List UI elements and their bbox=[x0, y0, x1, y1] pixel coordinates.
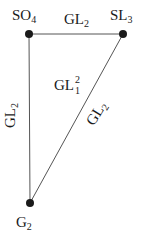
edge-label-so4-g2: GL2 bbox=[3, 103, 18, 128]
node-label-sl3-base: SL bbox=[110, 7, 128, 23]
interior-label-base: GL bbox=[54, 77, 74, 93]
node-g2-dot bbox=[26, 199, 34, 207]
interior-label-superscript: 2 bbox=[75, 75, 80, 85]
node-label-g2-subscript: 2 bbox=[27, 221, 32, 232]
node-label-sl3: SL3 bbox=[110, 8, 133, 23]
edge-sl3-g2 bbox=[30, 34, 123, 203]
node-label-sl3-subscript: 3 bbox=[128, 14, 133, 25]
edge-label-so4-g2-base: GL bbox=[2, 108, 18, 128]
node-label-g2: G2 bbox=[16, 215, 32, 230]
edge-label-so4-sl3-subscript: 2 bbox=[84, 18, 89, 29]
edge-label-so4-sl3-base: GL bbox=[64, 11, 84, 27]
edge-label-so4-sl3: GL2 bbox=[64, 12, 89, 27]
graph-edges-canvas bbox=[0, 0, 143, 237]
node-label-so4-subscript: 4 bbox=[31, 14, 36, 25]
node-so4-dot bbox=[25, 30, 33, 38]
edge-label-so4-g2-subscript: 2 bbox=[9, 103, 20, 108]
triangle-graph-diagram: SO4 SL3 G2 GL2 GL2 GL2 GL21 bbox=[0, 0, 143, 237]
node-label-g2-base: G bbox=[16, 214, 27, 230]
interior-label-scripts: 21 bbox=[74, 78, 81, 93]
node-sl3-dot bbox=[119, 30, 127, 38]
interior-label-gl1-squared: GL21 bbox=[54, 78, 81, 93]
interior-label-subscript: 1 bbox=[75, 86, 80, 96]
node-label-so4-base: SO bbox=[12, 7, 31, 23]
node-label-so4: SO4 bbox=[12, 8, 36, 23]
edge-so4-g2 bbox=[29, 34, 30, 203]
